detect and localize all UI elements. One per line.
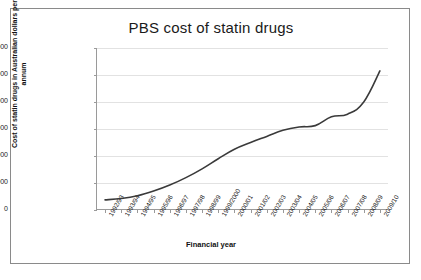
- x-tick-mark: [299, 210, 300, 213]
- chart-frame: PBS cost of statin drugs Cost of statin …: [10, 8, 410, 264]
- x-tick-mark: [170, 210, 171, 213]
- plot-area: 1 200 000 0001 000 000 000800 000 000600…: [96, 48, 387, 210]
- x-tick-mark: [315, 210, 316, 213]
- x-tick-mark: [380, 210, 381, 213]
- x-tick-mark: [154, 210, 155, 213]
- x-tick-mark: [251, 210, 252, 213]
- x-tick-mark: [105, 210, 106, 213]
- y-tick-label: 600 000 000: [0, 124, 8, 131]
- y-tick-label: 800 000 000: [0, 97, 8, 104]
- x-tick-mark: [331, 210, 332, 213]
- x-tick-mark: [202, 210, 203, 213]
- y-tick-label: 400 000 000: [0, 151, 8, 158]
- x-tick-mark: [137, 210, 138, 213]
- x-axis-title: Financial year: [11, 240, 411, 249]
- x-tick-mark: [234, 210, 235, 213]
- x-tick-mark: [283, 210, 284, 213]
- y-tick-label: 200 000 000: [0, 178, 8, 185]
- x-tick-mark: [364, 210, 365, 213]
- x-tick-mark: [267, 210, 268, 213]
- x-tick-mark: [218, 210, 219, 213]
- y-tick-mark: [94, 210, 97, 211]
- y-tick-label: 1 000 000 000: [0, 70, 8, 77]
- line-series: [97, 48, 388, 210]
- y-axis-title: Cost of statin drugs in Australian dolla…: [10, 0, 28, 154]
- series-path-statin-cost: [105, 71, 380, 200]
- y-tick-label: 0: [0, 205, 8, 212]
- y-tick-label: 1 200 000 000: [0, 43, 8, 50]
- x-tick-mark: [186, 210, 187, 213]
- chart-title: PBS cost of statin drugs: [11, 19, 411, 36]
- x-tick-mark: [348, 210, 349, 213]
- x-tick-mark: [121, 210, 122, 213]
